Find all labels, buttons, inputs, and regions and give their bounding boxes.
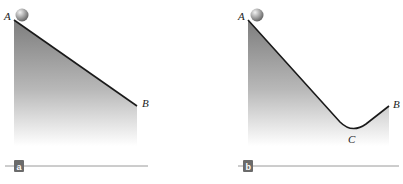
point-label-a: A <box>237 10 245 22</box>
point-label-a: A <box>3 10 11 22</box>
diagram-canvas: A B a A B C b <box>0 0 403 184</box>
panel-b: A B C b <box>237 9 400 173</box>
ball <box>16 9 29 22</box>
ball <box>251 9 264 22</box>
incline-fill <box>14 20 137 146</box>
valley-fill <box>248 20 389 146</box>
point-label-b: B <box>393 98 400 110</box>
point-label-c: C <box>348 133 356 145</box>
panel-a: A B a <box>3 9 149 173</box>
panel-badge-label: b <box>246 162 252 172</box>
point-label-b: B <box>142 97 149 109</box>
